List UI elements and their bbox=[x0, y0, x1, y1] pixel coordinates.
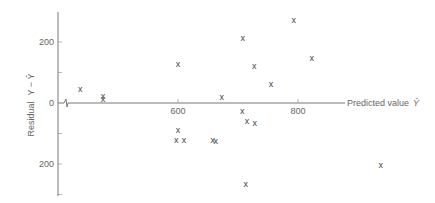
data-point-x-marker: x bbox=[78, 84, 83, 94]
residual-plot: 6008002000200 xxxxxxxxxxxxxxxxxxxx Resid… bbox=[0, 0, 435, 203]
data-point-x-marker: x bbox=[176, 59, 181, 69]
data-point-x-marker: x bbox=[240, 106, 245, 116]
y-tick-label: 200 bbox=[39, 159, 54, 169]
axis-break-icon bbox=[64, 99, 68, 107]
x-tick-label: 600 bbox=[170, 106, 185, 116]
data-point-x-marker: x bbox=[241, 33, 246, 43]
data-point-x-marker: x bbox=[252, 61, 257, 71]
data-point-x-marker: x bbox=[244, 179, 249, 189]
data-point-x-marker: x bbox=[253, 118, 258, 128]
x-axis-label: Predicted valueŶ bbox=[347, 98, 420, 108]
y-axis-label: ResidualY − Ŷ bbox=[26, 73, 36, 136]
data-point-x-marker: x bbox=[101, 94, 106, 104]
data-points: xxxxxxxxxxxxxxxxxxxx bbox=[78, 15, 384, 189]
x-tick-label: 800 bbox=[290, 106, 305, 116]
y-tick-label: 0 bbox=[49, 98, 54, 108]
data-point-x-marker: x bbox=[214, 136, 219, 146]
data-point-x-marker: x bbox=[379, 160, 384, 170]
data-point-x-marker: x bbox=[245, 116, 250, 126]
data-point-x-marker: x bbox=[174, 135, 179, 145]
data-point-x-marker: x bbox=[292, 15, 297, 25]
data-point-x-marker: x bbox=[176, 125, 181, 135]
y-tick-label: 200 bbox=[39, 37, 54, 47]
data-point-x-marker: x bbox=[220, 92, 225, 102]
data-point-x-marker: x bbox=[310, 53, 315, 63]
data-point-x-marker: x bbox=[182, 135, 187, 145]
data-point-x-marker: x bbox=[269, 79, 274, 89]
